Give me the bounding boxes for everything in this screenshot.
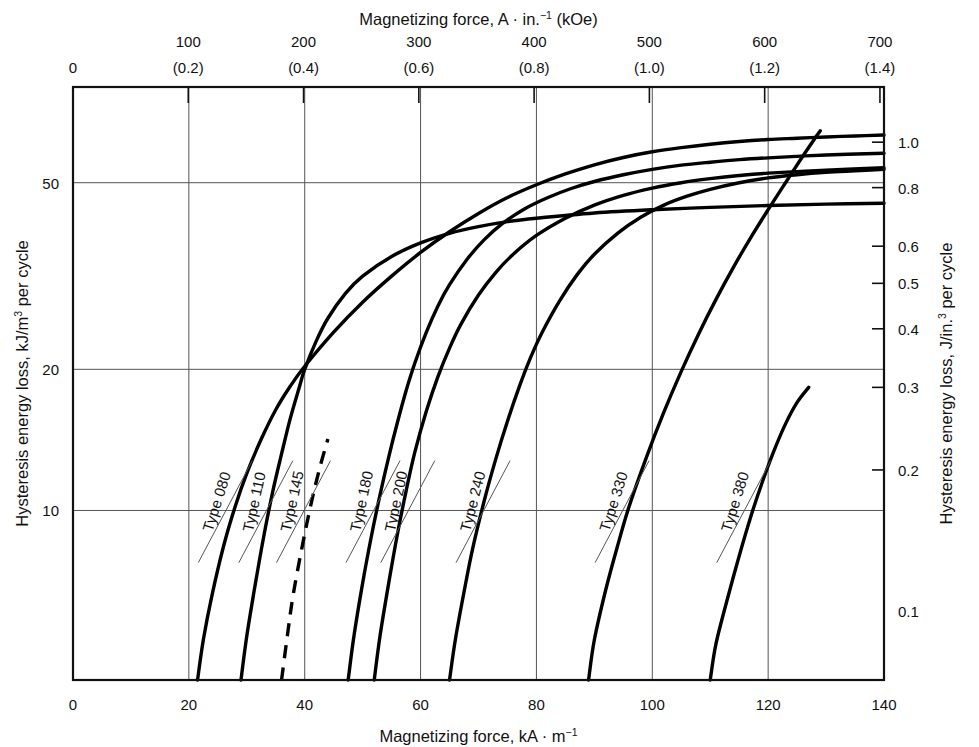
x-tick-label-20: 20 bbox=[181, 696, 198, 713]
curve-type-200 bbox=[374, 168, 884, 680]
curve-label-type-330: Type 330 bbox=[595, 461, 649, 563]
y-right-tick-label-0.5: 0.5 bbox=[898, 275, 919, 292]
x-tick-label-140: 140 bbox=[871, 696, 896, 713]
x-axis-title-top: Magnetizing force, A · in.−1 (kOe) bbox=[359, 9, 598, 28]
y-axis-title-left-text: Hysteresis energy loss, kJ/m3 per cycle bbox=[12, 240, 31, 526]
x-top-tick-label-600: 600 bbox=[752, 33, 777, 50]
curve-label-type-200: Type 200 bbox=[381, 461, 435, 563]
y-right-tick-label-0.8: 0.8 bbox=[898, 180, 919, 197]
x-top-tick-label-(0.6): (0.6) bbox=[403, 59, 434, 76]
x-top-tick-label-200: 200 bbox=[291, 33, 316, 50]
x-tick-label-0: 0 bbox=[69, 696, 77, 713]
x-top-tick-label-700: 700 bbox=[867, 33, 892, 50]
x-axis-title-bottom: Magnetizing force, kA · m−1 bbox=[379, 726, 577, 745]
y-axis-left: 502010 bbox=[42, 175, 59, 520]
x-axis-title-text: Magnetizing force, kA · m−1 bbox=[379, 726, 577, 745]
y-axis-title-left: Hysteresis energy loss, kJ/m3 per cycle bbox=[12, 240, 31, 526]
hysteresis-energy-loss-chart: Type 080Type 110Type 145Type 180Type 200… bbox=[0, 0, 979, 747]
curve-label-text: Type 180 bbox=[346, 469, 376, 533]
x-axis-title-top-text: Magnetizing force, A · in.−1 (kOe) bbox=[359, 9, 598, 28]
curve-type-180 bbox=[348, 153, 884, 680]
x-top-tick-label-(1.0): (1.0) bbox=[634, 59, 665, 76]
x-top-tick-label-(0.2): (0.2) bbox=[173, 59, 204, 76]
y-gridlines bbox=[73, 183, 884, 511]
x-tick-label-80: 80 bbox=[528, 696, 545, 713]
x-top-tick-label-100: 100 bbox=[176, 33, 201, 50]
y-right-tick-label-0.2: 0.2 bbox=[898, 462, 919, 479]
x-top-tick-label-(1.2): (1.2) bbox=[749, 59, 780, 76]
curve-type-380 bbox=[710, 387, 808, 680]
x-tick-label-60: 60 bbox=[412, 696, 429, 713]
x-top-tick-label-300: 300 bbox=[406, 33, 431, 50]
x-top-tick-label-(0.4): (0.4) bbox=[288, 59, 319, 76]
x-top-tick-label-(0.8): (0.8) bbox=[519, 59, 550, 76]
curve-labels: Type 080Type 110Type 145Type 180Type 200… bbox=[198, 461, 770, 563]
curve-label-type-240: Type 240 bbox=[456, 461, 510, 563]
y-right-tick-label-0.3: 0.3 bbox=[898, 379, 919, 396]
x-tick-label-120: 120 bbox=[756, 696, 781, 713]
curve-label-text: Type 330 bbox=[596, 470, 631, 534]
y-right-tick-label-0.1: 0.1 bbox=[898, 603, 919, 620]
x-top-tick-label-(1.4): (1.4) bbox=[865, 59, 896, 76]
curve-type-240 bbox=[450, 169, 884, 680]
y-right-tick-label-0.4: 0.4 bbox=[898, 321, 919, 338]
y-right-tick-label-0.6: 0.6 bbox=[898, 238, 919, 255]
curve-type-330 bbox=[589, 131, 821, 680]
y-axis-title-right-text: Hysteresis energy loss, J/in.3 per cycle bbox=[936, 243, 955, 525]
x-top-tick-label-500: 500 bbox=[637, 33, 662, 50]
curve-label-text: Type 200 bbox=[381, 469, 410, 533]
curve-type-110 bbox=[241, 203, 884, 680]
chart-canvas: Type 080Type 110Type 145Type 180Type 200… bbox=[0, 0, 979, 747]
y-axis-right: 1.00.80.60.50.40.30.20.1 bbox=[872, 134, 919, 620]
x-top-tick-label-400: 400 bbox=[522, 33, 547, 50]
curve-label-type-380: Type 380 bbox=[717, 461, 771, 563]
x-tick-label-40: 40 bbox=[296, 696, 313, 713]
y-right-tick-label-1.0: 1.0 bbox=[898, 134, 919, 151]
y-left-tick-label-50: 50 bbox=[42, 175, 59, 192]
y-left-tick-label-10: 10 bbox=[42, 502, 59, 519]
curve-label-text: Type 145 bbox=[277, 469, 307, 533]
x-tick-label-100: 100 bbox=[640, 696, 665, 713]
x-axis-bottom: 020406080100120140 bbox=[69, 696, 897, 713]
x-gridlines bbox=[189, 87, 768, 680]
plot-frame bbox=[73, 87, 884, 680]
curves bbox=[198, 131, 884, 680]
y-axis-title-right: Hysteresis energy loss, J/in.3 per cycle bbox=[936, 243, 955, 525]
x-top-tick-label-0: 0 bbox=[69, 59, 77, 76]
y-left-tick-label-20: 20 bbox=[42, 361, 59, 378]
x-axis-top: 0100(0.2)200(0.4)300(0.6)400(0.8)500(1.0… bbox=[69, 33, 896, 103]
